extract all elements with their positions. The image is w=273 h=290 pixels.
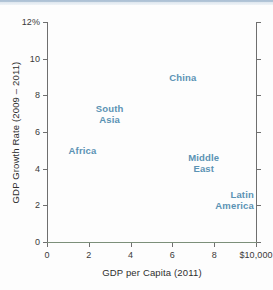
x-axis-baseline	[47, 242, 257, 243]
y-tick-mark-right	[257, 59, 261, 60]
x-tick-mark	[47, 243, 48, 247]
x-tick-mark	[131, 243, 132, 247]
x-tick-mark	[89, 243, 90, 247]
x-tick-label: $10,000	[239, 250, 272, 260]
y-tick-label: 10	[30, 54, 40, 64]
y-tick-mark	[43, 59, 47, 60]
gdp-scatter-chart: 024681012% 02468$10,000 ChinaSouth AsiaA…	[0, 0, 273, 290]
x-tick-label: 0	[44, 250, 49, 260]
y-tick-label: 0	[35, 237, 40, 247]
y-tick-label: 2	[35, 200, 40, 210]
y-tick-label: 8	[35, 90, 40, 100]
y-tick-mark-right	[257, 132, 261, 133]
y-tick-mark	[43, 22, 47, 23]
y-tick-mark-right	[257, 205, 261, 206]
y-tick-mark	[43, 132, 47, 133]
y-tick-mark	[43, 205, 47, 206]
x-tick-label: 2	[86, 250, 91, 260]
x-tick-mark	[172, 243, 173, 247]
y-tick-label: 12%	[22, 17, 40, 27]
x-tick-mark	[214, 243, 215, 247]
y-tick-mark	[43, 95, 47, 96]
data-label-middle-east: Middle East	[188, 152, 219, 174]
y-tick-label: 6	[35, 127, 40, 137]
y-tick-mark	[43, 169, 47, 170]
data-label-china: China	[169, 72, 196, 83]
data-label-latin-america: Latin America	[215, 189, 254, 211]
x-tick-label: 4	[128, 250, 133, 260]
y-tick-mark-right	[257, 22, 261, 23]
y-tick-mark-right	[257, 169, 261, 170]
plot-area: 024681012% 02468$10,000 ChinaSouth AsiaA…	[47, 22, 257, 243]
y-axis-spine	[47, 22, 48, 243]
y-tick-mark-right	[257, 242, 261, 243]
data-label-south-asia: South Asia	[96, 103, 124, 125]
y-tick-label: 4	[35, 164, 40, 174]
x-axis-title: GDP per Capita (2011)	[47, 267, 257, 278]
x-tick-label: 6	[170, 250, 175, 260]
x-tick-mark	[256, 243, 257, 247]
x-tick-label: 8	[212, 250, 217, 260]
y-axis-title: GDP Growth Rate (2009 – 2011)	[10, 22, 24, 243]
data-label-africa: Africa	[69, 145, 97, 156]
y-tick-mark-right	[257, 95, 261, 96]
